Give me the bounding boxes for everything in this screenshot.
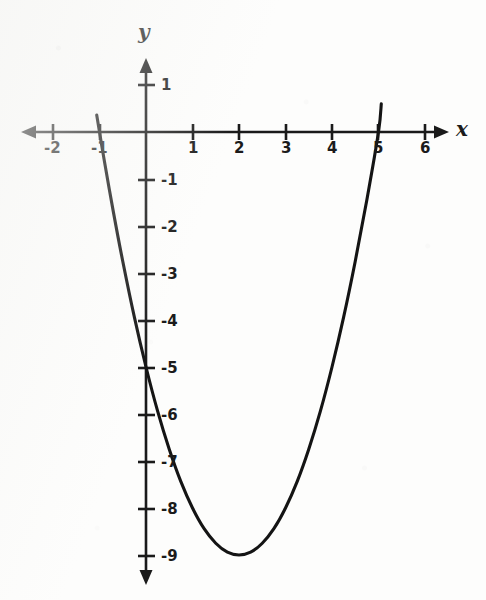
parabola-curve — [97, 104, 382, 555]
x-tick-label--1: -1 — [91, 141, 108, 156]
y-tick-label--5: -5 — [161, 361, 178, 376]
y-tick-label-1: 1 — [161, 78, 171, 93]
y-tick-label--3: -3 — [161, 267, 178, 282]
y-axis-label: y — [138, 22, 150, 42]
y-tick-label--9: -9 — [161, 549, 178, 564]
x-tick-label-3: 3 — [281, 141, 291, 156]
x-tick-label-6: 6 — [420, 141, 430, 156]
y-tick-label--1: -1 — [161, 173, 178, 188]
x-axis-arrow-left — [21, 126, 36, 139]
x-axis-label: x — [456, 119, 468, 139]
parabola-plot — [0, 0, 486, 600]
y-axis-arrow-down — [140, 570, 153, 585]
y-tick-label--6: -6 — [161, 408, 178, 423]
x-tick-label-1: 1 — [188, 141, 198, 156]
graph-canvas: -2 -1 1 2 3 4 5 6 1 -1 -2 -3 -4 -5 -6 -7… — [0, 0, 486, 600]
y-tick-label--8: -8 — [161, 502, 178, 517]
y-tick-label--2: -2 — [161, 220, 178, 235]
x-tick-label--2: -2 — [44, 141, 61, 156]
y-axis-arrow-up — [140, 58, 153, 73]
x-tick-label-2: 2 — [234, 141, 244, 156]
x-axis-arrow-right — [434, 126, 449, 139]
y-tick-label--7: -7 — [161, 455, 178, 470]
x-tick-label-4: 4 — [327, 141, 337, 156]
x-tick-label-5: 5 — [373, 141, 383, 156]
x-axis — [21, 126, 449, 139]
y-tick-label--4: -4 — [161, 314, 178, 329]
